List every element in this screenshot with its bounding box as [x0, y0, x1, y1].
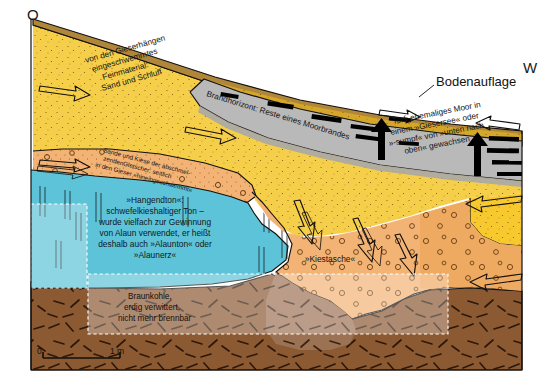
- label-hangendton-line-2: schwefelkieshaltiger Ton –: [106, 206, 204, 216]
- compass-west-label: W: [523, 59, 538, 76]
- label-hangendton-line-3: wurde vielfach zur Gewinnung: [98, 217, 212, 227]
- cross-section-svg: 0 1 m O W Bodenauflage von den Gieserhän…: [0, 0, 553, 387]
- label-braunkohle-line-3: nicht mehr brennbar: [118, 314, 192, 323]
- cross-section-body: 0 1 m O W Bodenauflage von den Gieserhän…: [27, 6, 538, 370]
- callout-bodenauflage-label: Bodenauflage: [436, 74, 516, 89]
- label-braunkohle-line-2: erdig verwittert,: [124, 303, 180, 312]
- label-hangendton-line-1: »Hangendton«:: [126, 195, 183, 205]
- callout-bodenauflage: Bodenauflage: [419, 74, 516, 97]
- scale-end-label: 1 m: [110, 346, 124, 356]
- highlight-box-clay: [31, 204, 87, 288]
- label-braunkohle-line-1: Braunkohle,: [128, 292, 172, 301]
- label-hangendton-line-6: »Alaunerz«: [134, 250, 177, 260]
- label-hangendton-line-5: deshalb auch »Alaunton« oder: [98, 239, 212, 249]
- label-kiestasche: »Kiestasche«: [305, 254, 356, 264]
- scale-start-label: 0: [37, 346, 42, 356]
- label-hangendton-line-4: von Alaun verwendet, er heißt: [100, 228, 211, 238]
- compass-east-label: O: [27, 6, 39, 23]
- geological-cross-section-figure: 0 1 m O W Bodenauflage von den Gieserhän…: [0, 0, 553, 387]
